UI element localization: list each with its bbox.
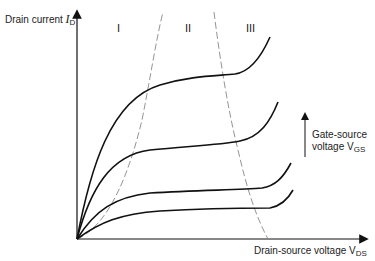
y-axis-subscript: D [70,18,76,27]
gate-voltage-line2: voltage V [312,141,354,152]
x-axis-label: Drain-source voltage VDS [254,245,367,260]
y-axis-label: Drain current ID [5,13,75,29]
breakdown-boundary [214,12,268,239]
region-3-label: III [246,22,255,34]
gate-voltage-label: Gate-source voltage VGS [312,129,367,156]
ohmic-saturation-boundary [77,12,163,239]
curve-vgs-1 [77,190,293,239]
x-axis-label-text: Drain-source voltage V [254,245,356,256]
x-axis-subscript: DS [356,249,367,258]
gate-voltage-subscript: GS [354,145,366,154]
region-2-label: II [185,22,191,34]
curve-vgs-3 [77,102,278,239]
region-1-label: I [117,22,120,34]
gate-voltage-line1: Gate-source [312,129,367,141]
y-axis-label-text: Drain current [5,14,66,25]
curve-vgs-2 [77,163,291,239]
